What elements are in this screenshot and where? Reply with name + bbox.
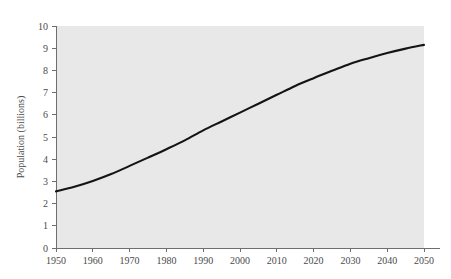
y-tick-label: 4 — [43, 154, 48, 165]
plot-area-background — [56, 26, 424, 248]
population-line-chart: 012345678910 195019601970198019902000201… — [0, 0, 451, 279]
y-tick-label: 7 — [43, 87, 48, 98]
chart-canvas: 012345678910 195019601970198019902000201… — [0, 0, 451, 279]
y-tick-label: 9 — [43, 43, 48, 54]
y-tick-label: 1 — [43, 220, 48, 231]
y-tick-label: 6 — [43, 109, 48, 120]
y-axis-title: Population (billions) — [15, 96, 27, 179]
y-tick-label: 5 — [43, 132, 48, 143]
y-tick-label: 3 — [43, 176, 48, 187]
x-tick-label: 2030 — [340, 255, 360, 266]
y-tick-label: 2 — [43, 198, 48, 209]
y-tick-label: 10 — [38, 21, 48, 32]
x-tick-label: 1960 — [83, 255, 103, 266]
x-tick-label: 1980 — [156, 255, 176, 266]
x-tick-label: 2040 — [377, 255, 397, 266]
x-tick-label: 2010 — [267, 255, 287, 266]
x-tick-label: 2050 — [414, 255, 434, 266]
x-tick-label: 1990 — [193, 255, 213, 266]
y-tick-label: 8 — [43, 65, 48, 76]
x-tick-label: 2020 — [304, 255, 324, 266]
y-tick-label: 0 — [43, 243, 48, 254]
x-tick-label: 1970 — [120, 255, 140, 266]
x-tick-label: 1950 — [46, 255, 66, 266]
x-tick-label: 2000 — [230, 255, 250, 266]
